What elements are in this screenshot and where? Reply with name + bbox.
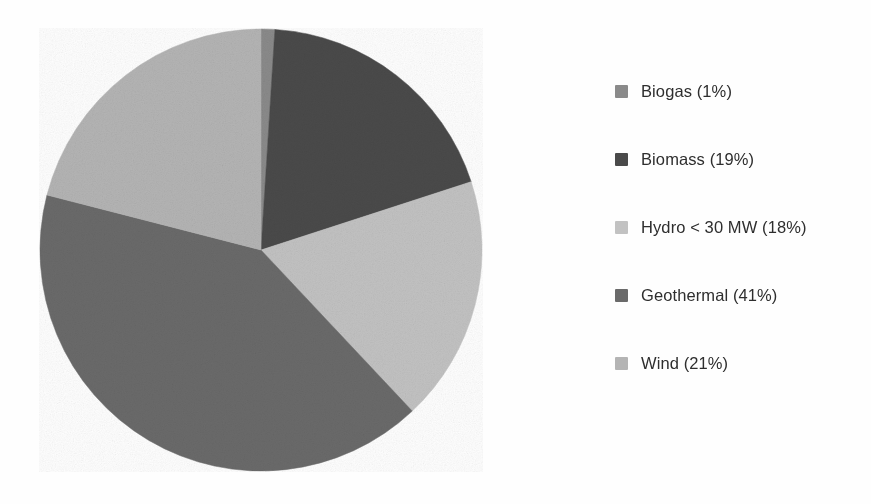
legend-item-biogas[interactable]: Biogas (1%) — [615, 76, 865, 106]
chart-legend: Biogas (1%)Biomass (19%)Hydro < 30 MW (1… — [615, 76, 865, 378]
legend-item-label: Geothermal (41%) — [641, 286, 777, 304]
legend-swatch-biomass — [615, 153, 628, 166]
legend-swatch-biogas — [615, 85, 628, 98]
legend-item-hydro-30-mw[interactable]: Hydro < 30 MW (18%) — [615, 212, 865, 242]
legend-swatch-wind — [615, 357, 628, 370]
legend-item-biomass[interactable]: Biomass (19%) — [615, 144, 865, 174]
pie-slices-group: Biogas (1%)Biomass (19%)Hydro < 30 MW (1… — [40, 29, 482, 471]
legend-item-geothermal[interactable]: Geothermal (41%) — [615, 280, 865, 310]
legend-swatch-geothermal — [615, 289, 628, 302]
legend-item-label: Hydro < 30 MW (18%) — [641, 218, 807, 236]
legend-item-label: Biogas (1%) — [641, 82, 732, 100]
legend-swatch-hydro — [615, 221, 628, 234]
pie-chart-figure: Biogas (1%)Biomass (19%)Hydro < 30 MW (1… — [0, 0, 871, 504]
pie-svg: Biogas (1%)Biomass (19%)Hydro < 30 MW (1… — [39, 28, 483, 472]
pie-chart-graphic: Biogas (1%)Biomass (19%)Hydro < 30 MW (1… — [39, 28, 483, 472]
legend-item-label: Biomass (19%) — [641, 150, 754, 168]
legend-item-label: Wind (21%) — [641, 354, 728, 372]
legend-item-wind[interactable]: Wind (21%) — [615, 348, 865, 378]
